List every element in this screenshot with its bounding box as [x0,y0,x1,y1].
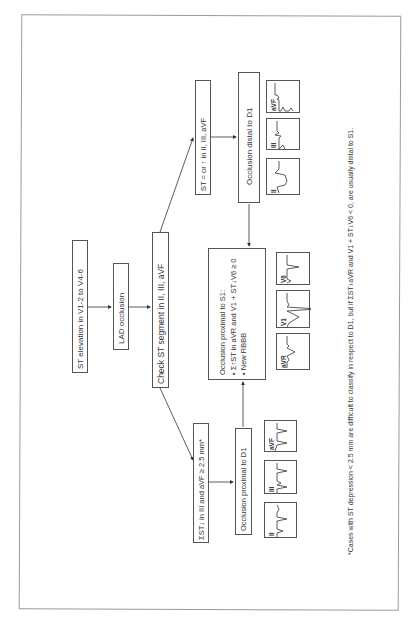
sum-st-down-label: ΣST↓ in III and aVF ≥ 2.5 mm* [197,439,206,540]
lead-label: II [270,189,277,193]
occlusion-distal-d1-box: Occlusion distal to D1 [238,72,260,203]
ecg-strip-ii-proximal: II [264,502,297,538]
st-equal-or-up-label: ST = or ↑ in II, III, aVF [199,118,208,191]
ecg-strip-avf-proximal: aVF [264,420,297,452]
lead-label: aVR [280,355,287,368]
proximal-s1-title: Occlusion proximal to S1: [218,258,229,375]
proximal-s1-bullet-1: ▪ Σ↑ST in aVR and V1 + ST↓V6 ≥ 0 [229,258,240,375]
occlusion-proximal-s1-content: Occlusion proximal to S1: ▪ Σ↑ST in aVR … [218,258,250,375]
lead-label: III [270,143,277,148]
ecg-strip-avr: aVR [276,333,310,370]
st-elevation-box: ST elevation in V1-2 to V4-6 [72,240,88,373]
occlusion-distal-d1-label: Occlusion distal to D1 [245,108,255,185]
ecg-strip-v6: V6 [276,252,310,285]
ecg-strip-iii-distal: III [266,118,300,150]
occlusion-proximal-d1-label: Occlusion proximal to D1 [239,448,248,531]
lead-label: V1 [280,318,287,326]
lead-label: V6 [280,275,287,283]
lead-label: II [268,532,275,536]
ecg-strip-iii-proximal: III [264,460,297,494]
ecg-strip-ii-distal: II [266,158,300,195]
lad-occlusion-label: LAD occlusion [117,293,127,344]
occlusion-proximal-s1-box: Occlusion proximal to S1: ▪ Σ↑ST in aVR … [208,248,266,380]
st-equal-or-up-box: ST = or ↑ in II, III, aVF [195,80,211,195]
footnote: *Cases with ST depression < 2.5 mm are d… [347,128,356,555]
lad-occlusion-box: LAD occlusion [113,263,129,350]
lead-label: aVF [270,99,277,111]
check-st-label: Check ST segment in II, III, aVF [156,264,167,384]
check-st-box: Check ST segment in II, III, aVF [152,232,169,388]
proximal-s1-bullet-2: ▪ New RBBB [239,258,250,375]
lead-label: aVF [268,438,275,450]
ecg-strip-v1: V1 [276,290,310,328]
ecg-strip-avf-distal: aVF [266,80,300,113]
occlusion-proximal-d1-box: Occlusion proximal to D1 [235,428,252,535]
sum-st-down-box: ΣST↓ in III and aVF ≥ 2.5 mm* [193,423,209,543]
st-elevation-label: ST elevation in V1-2 to V4-6 [76,269,86,369]
lead-label: III [268,487,275,492]
